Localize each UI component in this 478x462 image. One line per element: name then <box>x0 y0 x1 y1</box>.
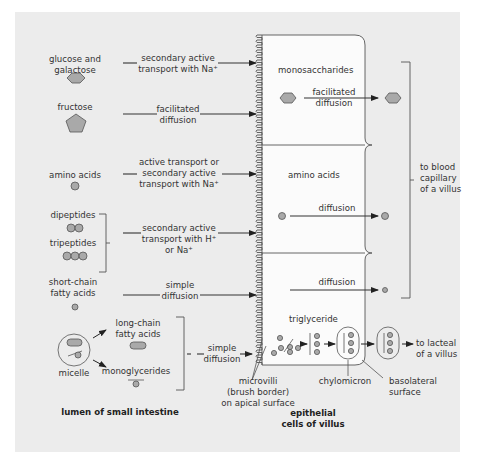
svg-text:lumen of small intestine: lumen of small intestine <box>61 407 179 417</box>
svg-text:epithelial: epithelial <box>290 408 336 418</box>
svg-text:long-chain: long-chain <box>116 318 161 328</box>
svg-text:simple: simple <box>166 280 194 290</box>
pentagon-icon <box>66 114 86 132</box>
svg-text:capillary: capillary <box>420 173 457 183</box>
svg-text:diffusion: diffusion <box>316 98 353 108</box>
svg-text:chylomicron: chylomicron <box>319 376 371 386</box>
svg-text:diffusion: diffusion <box>319 277 356 287</box>
svg-text:fructose: fructose <box>57 102 92 112</box>
svg-text:transport with Na⁺: transport with Na⁺ <box>139 179 219 189</box>
svg-text:triglyceride: triglyceride <box>289 314 338 324</box>
svg-text:secondary active: secondary active <box>141 53 214 63</box>
microvilli-border <box>256 35 262 365</box>
svg-text:dipeptides: dipeptides <box>50 210 96 220</box>
svg-text:fatty acids: fatty acids <box>115 329 161 339</box>
nutrient-shapes <box>58 73 146 387</box>
svg-text:secondary active: secondary active <box>142 223 215 233</box>
svg-text:facilitated: facilitated <box>157 104 200 114</box>
svg-text:secondary active: secondary active <box>142 168 215 178</box>
svg-text:(brush border): (brush border) <box>227 387 289 397</box>
svg-text:or Na⁺: or Na⁺ <box>165 245 193 255</box>
short-chain-fa-icon <box>72 304 78 310</box>
svg-text:galactose: galactose <box>54 65 96 75</box>
svg-text:fatty acids: fatty acids <box>50 288 96 298</box>
svg-text:micelle: micelle <box>59 368 90 378</box>
svg-text:diffusion: diffusion <box>204 354 241 364</box>
amino-acid-icon <box>71 182 79 190</box>
svg-text:amino acids: amino acids <box>49 170 101 180</box>
svg-text:glucose and: glucose and <box>49 54 101 64</box>
micelle-arrows <box>93 330 106 367</box>
svg-text:to blood: to blood <box>420 162 455 172</box>
svg-text:monosaccharides: monosaccharides <box>278 65 354 75</box>
svg-text:active transport or: active transport or <box>139 157 220 167</box>
svg-text:tripeptides: tripeptides <box>50 238 97 248</box>
svg-text:diffusion: diffusion <box>160 115 197 125</box>
svg-text:monoglycerides: monoglycerides <box>102 366 171 376</box>
svg-text:of a villus: of a villus <box>416 349 458 359</box>
svg-text:basolateral: basolateral <box>389 376 437 386</box>
svg-text:to lacteal: to lacteal <box>416 338 456 348</box>
svg-text:microvilli: microvilli <box>239 376 278 386</box>
svg-text:cells of villus: cells of villus <box>281 419 344 429</box>
svg-text:transport with H⁺: transport with H⁺ <box>142 234 216 244</box>
svg-text:short-chain: short-chain <box>49 277 97 287</box>
svg-text:diffusion: diffusion <box>162 291 199 301</box>
svg-text:simple: simple <box>208 343 236 353</box>
svg-text:of a villus: of a villus <box>420 184 462 194</box>
svg-text:facilitated: facilitated <box>313 87 356 97</box>
svg-text:surface: surface <box>389 387 421 397</box>
svg-text:amino acids: amino acids <box>288 170 340 180</box>
absorption-diagram: glucose and galactose secondary active t… <box>0 0 478 462</box>
svg-text:transport with Na⁺: transport with Na⁺ <box>138 64 218 74</box>
svg-text:on apical surface: on apical surface <box>221 398 294 408</box>
svg-text:diffusion: diffusion <box>319 203 356 213</box>
